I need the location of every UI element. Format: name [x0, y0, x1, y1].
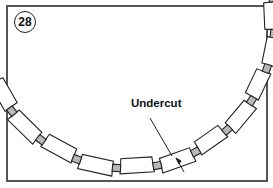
spacer	[72, 154, 82, 163]
arc-block	[41, 134, 77, 163]
arc-block	[0, 78, 17, 112]
arc-block	[264, 1, 273, 30]
undercut-leader-line	[150, 118, 172, 156]
spacer	[153, 161, 162, 169]
arc-block	[262, 37, 273, 68]
arc-block	[120, 157, 154, 174]
arc-block	[78, 154, 114, 176]
spacer	[262, 64, 271, 74]
arc-diagram	[0, 0, 273, 188]
arc-block	[245, 69, 270, 100]
arc-blocks	[0, 0, 273, 176]
spacer	[270, 29, 273, 38]
spacer	[112, 164, 121, 172]
